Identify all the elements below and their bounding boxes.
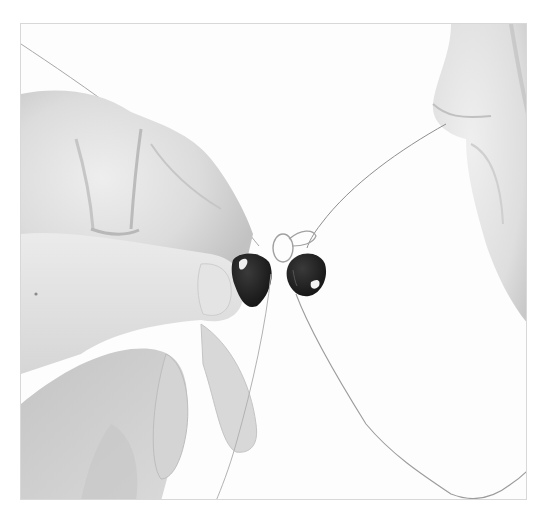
thread-down-right	[296, 294, 527, 499]
thread-right	[307, 124, 446, 248]
bead-right	[287, 254, 326, 297]
left-hand	[21, 91, 257, 500]
photo-illustration	[21, 24, 527, 500]
photo-frame: Grayscale photo of two hands threading t…	[20, 23, 527, 500]
right-hand	[433, 24, 527, 324]
